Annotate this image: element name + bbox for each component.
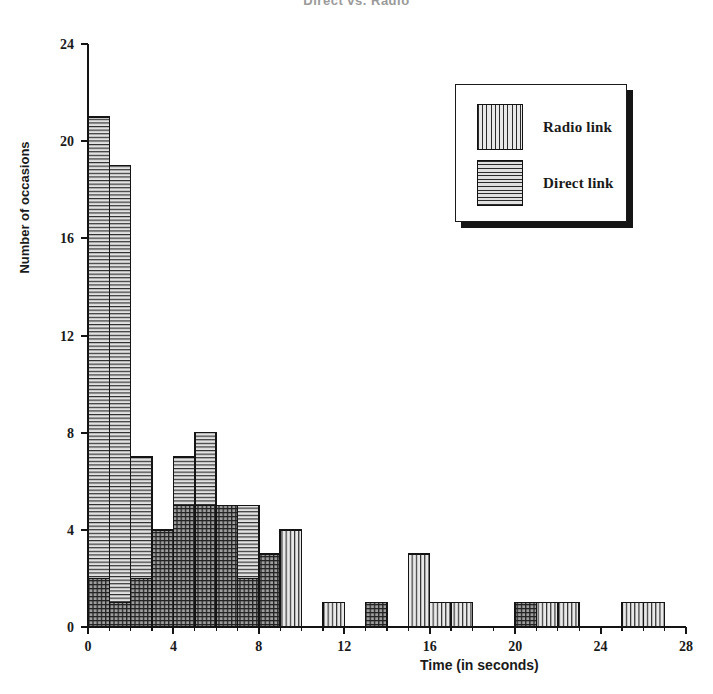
legend-label-direct-link: Direct link — [543, 175, 614, 192]
histogram-bar — [88, 578, 109, 627]
axis-tick-label: 16 — [423, 639, 437, 654]
axis-tick-label: 0 — [85, 639, 92, 654]
histogram-bar — [537, 603, 558, 627]
histogram-bar — [323, 603, 344, 627]
histogram-bar — [216, 506, 237, 627]
axis-tick-label: 20 — [508, 639, 522, 654]
histogram-bar — [643, 603, 664, 627]
histogram-bar — [173, 506, 194, 627]
axis-tick-label: 4 — [170, 639, 177, 654]
legend-swatch-radio-icon — [477, 104, 523, 150]
axis-tick-label: 8 — [67, 426, 74, 441]
axis-tick-label: 24 — [60, 37, 74, 52]
axis-tick-label: 0 — [67, 620, 74, 635]
axis-tick-label: 8 — [255, 639, 262, 654]
histogram-bar — [451, 603, 472, 627]
histogram-bar — [430, 603, 451, 627]
histogram-bar — [259, 554, 280, 627]
histogram-bar — [408, 554, 429, 627]
axis-tick-label: 20 — [60, 134, 74, 149]
histogram-bar — [152, 530, 173, 627]
histogram-bar — [131, 457, 152, 578]
histogram-bar — [558, 603, 579, 627]
histogram-bar — [131, 578, 152, 627]
histogram-bar — [173, 457, 194, 506]
histogram-bar — [88, 117, 109, 579]
legend-item-radio-link: Radio link — [477, 104, 612, 150]
histogram-figure: Direct vs. Radio Number of occasions Tim… — [0, 0, 713, 694]
histogram-bar — [280, 530, 301, 627]
histogram-bar — [238, 578, 259, 627]
axis-tick-label: 28 — [679, 639, 693, 654]
histogram-bar — [622, 603, 643, 627]
histogram-bar — [238, 506, 259, 579]
histogram-bar — [515, 603, 536, 627]
legend-item-direct-link: Direct link — [477, 160, 614, 206]
histogram-bar — [195, 506, 216, 627]
axis-tick-label: 16 — [60, 231, 74, 246]
axis-tick-label: 24 — [594, 639, 608, 654]
axis-tick-label: 12 — [60, 329, 74, 344]
histogram-bar — [109, 165, 130, 602]
histogram-bar — [109, 603, 130, 627]
axis-tick-label: 12 — [337, 639, 351, 654]
legend-swatch-direct-icon — [477, 160, 523, 206]
axis-tick-label: 4 — [67, 523, 74, 538]
histogram-bar — [195, 433, 216, 506]
legend-label-radio-link: Radio link — [543, 119, 612, 136]
histogram-bar — [366, 603, 387, 627]
legend: Radio link Direct link — [455, 84, 627, 222]
